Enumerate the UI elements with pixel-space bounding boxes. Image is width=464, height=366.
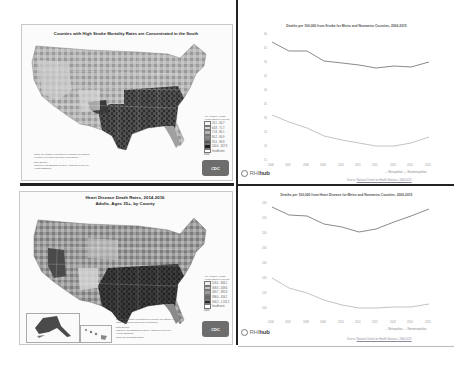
y-tick: 240 — [262, 202, 266, 205]
x-tick: 2011 — [355, 164, 361, 167]
x-tick: 2015 — [425, 321, 431, 324]
y-tick: 100 — [262, 307, 266, 310]
legend-item: Insufficient Data — [204, 149, 230, 157]
legend-nonmetro: Nonmetropolitan — [407, 171, 426, 174]
legend-nonmetro: Nonmetropolitan — [407, 328, 426, 331]
x-tick: 2009 — [320, 164, 326, 167]
cdc-logo: CDC — [202, 160, 229, 176]
source-link[interactable]: National Center for Health Statistics, 2… — [357, 179, 412, 182]
y-tick: 55 — [264, 47, 267, 50]
x-tick: 2007 — [285, 321, 291, 324]
x-tick: 2006 — [268, 321, 274, 324]
y-tick: 220 — [262, 217, 266, 220]
heart-map-panel: Heart Disease Death Rates, 2014-2016 Adu… — [0, 188, 231, 366]
legend-item: Insufficient Data — [204, 304, 230, 312]
cdc-logo-text: CDC — [211, 166, 220, 171]
x-tick: 2007 — [285, 164, 291, 167]
y-tick: 25 — [264, 131, 267, 134]
alaska-inset — [26, 313, 80, 343]
source-link[interactable]: National Center for Health Statistics, 2… — [357, 338, 412, 341]
x-tick: 2010 — [338, 164, 344, 167]
y-tick: 30 — [264, 117, 267, 120]
x-tick: 2009 — [320, 321, 326, 324]
x-tick: 2006 — [268, 164, 274, 167]
alaska-map — [27, 314, 79, 342]
y-tick: 60 — [264, 33, 267, 36]
cdc-logo: CDC — [202, 321, 229, 337]
y-tick: 20 — [264, 145, 267, 148]
us-stroke-choropleth-map — [28, 40, 214, 160]
y-tick: 35 — [264, 103, 267, 106]
rhihub-globe-icon — [241, 170, 248, 177]
rhihub-logo: RHIhub — [241, 170, 270, 177]
y-tick: 45 — [264, 75, 267, 78]
x-tick: 2012 — [372, 164, 378, 167]
vertical-separator — [236, 0, 238, 345]
x-tick: 2014 — [407, 164, 413, 167]
x-tick: 2013 — [390, 321, 396, 324]
stroke-map-legend: Age-Adjusted Average Annual Rates per 10… — [204, 115, 230, 157]
heart-chart-source: Source: National Center for Health Stati… — [347, 338, 412, 341]
y-tick: 180 — [262, 247, 266, 250]
heart-map-legend: Age-Adjusted Average Annual Rates per 10… — [204, 275, 230, 312]
y-tick: 200 — [262, 232, 266, 235]
horizontal-separator-right — [238, 184, 454, 186]
x-tick: 2015 — [425, 164, 431, 167]
x-tick: 2014 — [407, 321, 413, 324]
rhihub-globe-icon — [241, 329, 248, 336]
x-tick: 2011 — [355, 321, 361, 324]
legend-title: Age-Adjusted Average Annual Rates per 10… — [204, 115, 230, 120]
rhihub-logo: RHIhub — [241, 329, 270, 336]
stroke-map-note: Rates are spatially smoothed to enhance … — [34, 153, 90, 170]
stroke-chart-panel: Deaths per 100,000 from Stroke for Metro… — [239, 14, 454, 184]
x-tick: 2008 — [303, 164, 309, 167]
x-tick: 2012 — [372, 321, 378, 324]
heart-line-chart — [272, 198, 444, 328]
y-tick: 160 — [262, 262, 266, 265]
y-tick: 50 — [264, 61, 267, 64]
heart-map-title-line2: Adults, Ages 35+, by County — [19, 201, 231, 207]
hawaii-map — [81, 326, 111, 342]
y-tick: 120 — [262, 292, 266, 295]
legend-title: Age-Adjusted Average Annual Rates per 10… — [204, 275, 230, 280]
nonmetro-heart-line — [272, 207, 429, 232]
stroke-chart-source: Source: National Center for Health Stati… — [347, 179, 412, 182]
heart-chart-legend: — Metropolitan — Nonmetropolitan — [385, 328, 426, 331]
stroke-chart-legend: — Metropolitan — Nonmetropolitan — [385, 171, 426, 174]
metro-stroke-line — [272, 115, 429, 146]
hawaii-inset — [80, 325, 112, 343]
metro-heart-line — [272, 278, 429, 308]
stroke-map-title: Counties with High Stroke Mortality Rate… — [21, 31, 231, 37]
stroke-line-chart — [272, 32, 444, 172]
right-panel-bottom-border — [238, 346, 454, 347]
heart-map-note: Rates are spatially smoothed to enhance … — [116, 318, 176, 339]
legend-metro: Metropolitan — [388, 171, 402, 174]
y-tick: 15 — [264, 159, 267, 162]
stroke-map-panel: Counties with High Stroke Mortality Rate… — [0, 0, 231, 181]
cdc-logo-text: CDC — [211, 327, 220, 332]
legend-metro: Metropolitan — [388, 328, 402, 331]
x-tick: 2013 — [390, 164, 396, 167]
stroke-chart-title: Deaths per 100,000 from Stroke for Metro… — [239, 24, 454, 28]
x-tick: 2008 — [303, 321, 309, 324]
x-tick: 2010 — [338, 321, 344, 324]
horizontal-separator-left — [20, 183, 234, 186]
nonmetro-stroke-line — [272, 42, 429, 68]
heart-chart-title: Deaths per 100,000 from Heart Disease fo… — [239, 193, 454, 197]
heart-chart-panel: Deaths per 100,000 from Heart Disease fo… — [239, 188, 454, 348]
y-tick: 40 — [264, 89, 267, 92]
y-tick: 140 — [262, 277, 266, 280]
